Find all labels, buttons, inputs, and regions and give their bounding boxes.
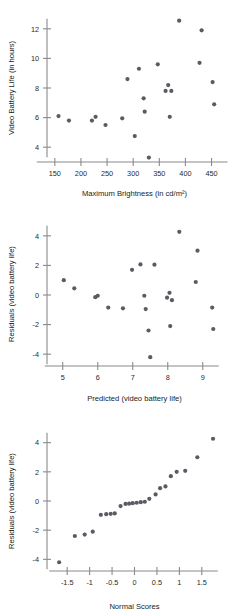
data-point xyxy=(211,327,215,331)
chart-svg-1: 4681012150200250300350400450Maximum Brig… xyxy=(0,0,233,206)
y-tick-label: -2 xyxy=(33,526,40,535)
x-axis-title: Predicted (video battery life) xyxy=(87,394,182,403)
data-point xyxy=(211,437,215,441)
data-point xyxy=(142,294,146,298)
data-point xyxy=(183,469,187,473)
y-tick-label: 2 xyxy=(35,261,39,270)
x-tick-label: 7 xyxy=(131,373,135,382)
y-tick-label: 8 xyxy=(35,84,39,93)
data-point xyxy=(67,118,71,122)
data-point xyxy=(167,291,171,295)
x-axis-title: Normal Scores xyxy=(109,602,159,611)
chart-1-content: 4681012150200250300350400450Maximum Brig… xyxy=(7,19,228,198)
x-tick-label: -0.5 xyxy=(106,578,119,587)
data-point xyxy=(135,501,139,505)
data-point xyxy=(143,500,147,504)
data-point xyxy=(73,534,77,538)
data-point xyxy=(168,324,172,328)
data-point xyxy=(113,511,117,515)
x-tick-label: 1.5 xyxy=(197,578,207,587)
scatter-panel-normal-probability-plot: -4-2024-1.5-1-0.500.511.5Normal ScoresRe… xyxy=(0,409,233,616)
data-point xyxy=(56,114,60,118)
chart-2-content: -4-202456789Predicted (video battery lif… xyxy=(7,226,219,403)
data-point xyxy=(211,80,215,84)
y-tick-label: 0 xyxy=(35,291,39,300)
data-point xyxy=(143,110,147,114)
x-tick-label: 6 xyxy=(96,373,100,382)
y-axis-title: Residuals (video battery life) xyxy=(7,453,16,549)
data-point xyxy=(195,249,199,253)
x-tick-label: 400 xyxy=(179,169,191,178)
data-point xyxy=(200,28,204,32)
data-point xyxy=(163,89,167,93)
y-tick-label: 10 xyxy=(31,54,39,63)
y-tick-label: 4 xyxy=(35,232,39,241)
data-point xyxy=(90,118,94,122)
y-tick-label: 0 xyxy=(35,497,39,506)
y-tick-label: 6 xyxy=(35,113,39,122)
data-point xyxy=(142,96,146,100)
x-tick-label: 350 xyxy=(153,169,165,178)
data-point xyxy=(144,307,148,311)
x-tick-label: 8 xyxy=(166,373,170,382)
data-point xyxy=(123,502,127,506)
y-tick-label: 4 xyxy=(35,438,39,447)
x-tick-label: 5 xyxy=(61,373,65,382)
data-point xyxy=(210,305,214,309)
data-point xyxy=(177,19,181,23)
data-point xyxy=(147,155,151,159)
data-point xyxy=(91,530,95,534)
data-point xyxy=(169,474,173,478)
data-point xyxy=(197,61,201,65)
y-tick-label: -4 xyxy=(33,555,40,564)
data-point xyxy=(104,512,108,516)
data-point xyxy=(146,328,150,332)
x-tick-label: 200 xyxy=(75,169,87,178)
data-point xyxy=(158,486,162,490)
data-point xyxy=(72,286,76,290)
scatter-panel-brightness-vs-battery: 4681012150200250300350400450Maximum Brig… xyxy=(0,0,233,206)
x-tick-label: 0 xyxy=(132,578,136,587)
data-point xyxy=(147,497,151,501)
data-point xyxy=(137,67,141,71)
data-point xyxy=(120,116,124,120)
data-point xyxy=(153,492,157,496)
chart-3-content: -4-2024-1.5-1-0.500.511.5Normal ScoresRe… xyxy=(7,433,218,611)
data-point xyxy=(139,500,143,504)
x-tick-label: 9 xyxy=(201,373,205,382)
data-point xyxy=(177,230,181,234)
data-point xyxy=(165,296,169,300)
scatter-panel-residuals-vs-predicted: -4-202456789Predicted (video battery lif… xyxy=(0,206,233,409)
data-point xyxy=(121,306,125,310)
data-point xyxy=(175,470,179,474)
x-tick-label: 150 xyxy=(49,169,61,178)
y-tick-label: 12 xyxy=(31,25,39,34)
data-point xyxy=(148,355,152,359)
data-point xyxy=(195,455,199,459)
x-tick-label: 450 xyxy=(205,169,217,178)
data-point xyxy=(168,115,172,119)
x-tick-label: 250 xyxy=(101,169,113,178)
data-point xyxy=(83,532,87,536)
data-point xyxy=(169,89,173,93)
data-point xyxy=(125,77,129,81)
data-point xyxy=(118,504,122,508)
y-tick-label: 4 xyxy=(35,143,39,152)
x-axis-title: Maximum Brightness (in cd/m²) xyxy=(82,189,188,198)
data-point xyxy=(133,134,137,138)
data-point xyxy=(130,268,134,272)
data-point xyxy=(96,294,100,298)
data-point xyxy=(194,280,198,284)
x-tick-label: 300 xyxy=(127,169,139,178)
x-tick-label: -1.5 xyxy=(61,578,74,587)
data-point xyxy=(170,298,174,302)
y-tick-label: -2 xyxy=(33,320,40,329)
data-point xyxy=(106,305,110,309)
chart-svg-3: -4-2024-1.5-1-0.500.511.5Normal ScoresRe… xyxy=(0,409,233,616)
data-point xyxy=(57,560,61,564)
data-point xyxy=(93,115,97,119)
y-axis-title: Video Battery Life (in hours) xyxy=(7,41,16,135)
data-point xyxy=(156,62,160,66)
data-point xyxy=(138,262,142,266)
figure-container: 4681012150200250300350400450Maximum Brig… xyxy=(0,0,233,616)
